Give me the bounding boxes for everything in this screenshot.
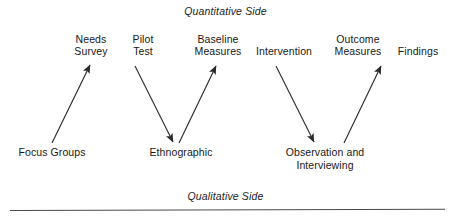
node-pilot-test: Pilot Test [122,33,164,58]
node-focus-groups: Focus Groups [10,146,94,159]
research-design-diagram: Quantitative Side Needs SurveyPilot Test… [0,0,451,220]
node-findings: Findings [392,45,444,58]
arrow-ethnographic-to-baseline-measures [179,66,216,143]
node-needs-survey: Needs Survey [64,33,118,58]
node-intervention: Intervention [251,45,317,58]
arrow-pilot-test-to-ethnographic [135,66,173,142]
node-observation-interviewing: Observation and Interviewing [275,146,375,171]
arrow-intervention-to-observation [276,66,314,142]
arrow-observation-to-outcome-measures [344,66,381,143]
arrow-focus-groups-to-needs-survey [52,65,90,143]
node-outcome-measures: Outcome Measures [325,33,391,58]
node-ethnographic: Ethnographic [141,146,221,159]
qualitative-side-caption: Qualitative Side [0,190,451,202]
node-baseline-measures: Baseline Measures [185,33,251,58]
